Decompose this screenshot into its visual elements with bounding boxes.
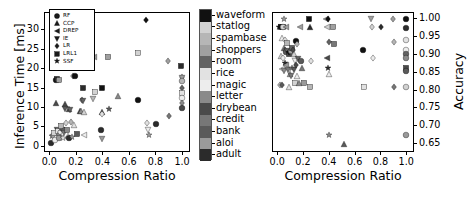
colorbar-tick <box>212 131 215 132</box>
y-tick-mark <box>414 107 417 108</box>
x-tick-label: 0.8 <box>373 157 388 167</box>
data-point <box>298 58 304 64</box>
colorbar-label: shoppers <box>216 45 261 55</box>
data-point <box>368 16 374 22</box>
legend-item-label: CCP <box>62 21 75 27</box>
colorbar-segment <box>200 22 211 34</box>
colorbar-tick <box>212 108 215 109</box>
data-point <box>391 38 397 44</box>
colorbar-segment <box>200 33 211 45</box>
x-tick-label: 0.6 <box>121 157 136 167</box>
y-tick-label: 0.75 <box>419 103 440 113</box>
colorbar-label: aloi <box>216 138 234 148</box>
colorbar-label: rice <box>216 68 234 78</box>
y-tick-mark <box>41 49 44 50</box>
x-tick-mark <box>182 152 183 155</box>
x-tick-label: 0.8 <box>148 157 163 167</box>
data-point <box>307 24 313 30</box>
y-tick-label: 5 <box>33 122 39 132</box>
x-tick-mark <box>406 152 407 155</box>
x-tick-label: 0.4 <box>321 157 336 167</box>
colorbar-label: spambase <box>216 33 267 43</box>
y-tick-label: 0.95 <box>419 31 440 41</box>
y-tick-label: 15 <box>27 83 39 93</box>
y-tick-mark <box>41 68 44 69</box>
data-point <box>403 132 409 138</box>
colorbar-label: drybean <box>216 103 257 113</box>
marker-legend: RFCCPDREPIELRLRL1SSF <box>49 9 95 71</box>
colorbar-tick <box>212 26 215 27</box>
data-point <box>145 132 151 138</box>
data-point <box>283 24 289 30</box>
colorbar-tick <box>212 50 215 51</box>
legend-item-ssf: SSF <box>51 58 92 66</box>
x-tick-label: 1.0 <box>174 157 189 167</box>
data-point <box>403 16 409 22</box>
data-point <box>390 16 396 22</box>
data-point <box>80 131 86 137</box>
star-icon <box>51 57 62 65</box>
y-axis-label: Accuracy <box>453 53 466 110</box>
data-point <box>369 24 375 30</box>
colorbar-tick <box>212 38 215 39</box>
x-tick-label: 0.0 <box>42 157 57 167</box>
data-point <box>294 41 300 47</box>
x-tick-label: 0.6 <box>347 157 362 167</box>
data-point <box>179 105 185 111</box>
data-point <box>92 89 98 95</box>
data-point <box>98 127 104 133</box>
data-point <box>115 93 121 99</box>
x-tick-mark <box>102 152 103 155</box>
colorbar-label: statlog <box>216 21 250 31</box>
data-point <box>294 73 300 79</box>
x-tick-mark <box>355 152 356 155</box>
data-point <box>90 96 96 102</box>
x-tick-label: 1.0 <box>399 157 414 167</box>
colorbar-segment <box>200 91 211 103</box>
data-point <box>326 71 332 77</box>
data-point <box>166 113 172 119</box>
data-point <box>403 84 409 90</box>
colorbar-tick <box>212 154 215 155</box>
data-point <box>370 55 376 61</box>
legend-item-label: RF <box>62 13 70 19</box>
data-point <box>73 131 79 137</box>
colorbar-tick <box>212 143 215 144</box>
data-point <box>324 55 330 61</box>
data-point <box>308 58 314 64</box>
data-point <box>306 16 312 22</box>
data-point <box>134 50 140 56</box>
y-tick-mark <box>414 54 417 55</box>
legend-item-label: LRL1 <box>62 51 77 57</box>
data-point <box>360 47 366 53</box>
data-point <box>105 54 111 60</box>
data-point <box>72 73 78 79</box>
x-tick-mark <box>329 152 330 155</box>
data-point <box>80 98 86 104</box>
y-tick-label: 1.00 <box>419 14 440 24</box>
colorbar-segment <box>200 149 211 161</box>
x-tick-mark <box>129 152 130 155</box>
data-point <box>71 122 77 128</box>
data-point <box>326 132 332 138</box>
y-tick-label: 20 <box>27 63 39 73</box>
y-tick-label: 0.90 <box>419 49 440 59</box>
x-tick-mark <box>303 152 304 155</box>
y-tick-label: 10 <box>27 102 39 112</box>
data-point <box>297 24 303 30</box>
x-axis-label: Compression Ratio <box>58 170 175 183</box>
data-point <box>80 85 86 91</box>
x-axis-label: Compression Ratio <box>284 170 401 183</box>
y-tick-mark <box>41 88 44 89</box>
y-tick-mark <box>41 107 44 108</box>
legend-item-label: SSF <box>62 59 74 65</box>
data-point <box>341 141 347 147</box>
colorbar-tick <box>212 73 215 74</box>
colorbar-segment <box>200 45 211 57</box>
data-point <box>179 78 185 84</box>
data-point <box>53 100 59 106</box>
data-point <box>391 84 397 90</box>
y-tick-label: 25 <box>27 44 39 54</box>
x-tick-label: 0.2 <box>68 157 83 167</box>
y-tick-mark <box>414 90 417 91</box>
